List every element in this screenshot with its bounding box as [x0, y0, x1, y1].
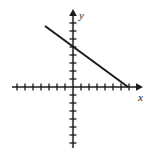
plotted-line	[45, 26, 128, 87]
coordinate-plane-figure: y x	[0, 0, 154, 153]
y-axis-arrowhead	[69, 9, 77, 16]
y-axis-label: y	[79, 10, 84, 21]
graph-canvas	[0, 0, 154, 153]
y-axis	[69, 9, 77, 148]
x-axis-arrowhead	[136, 83, 143, 91]
plotted-line-series	[45, 26, 128, 87]
x-axis-label: x	[138, 92, 143, 103]
